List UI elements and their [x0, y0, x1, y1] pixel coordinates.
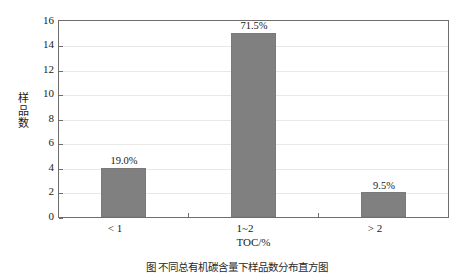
x-axis-title: TOC/% [58, 236, 449, 248]
x-tick-mark [188, 213, 189, 217]
y-tick-label: 4 [32, 162, 54, 173]
bar-category-0 [101, 168, 146, 217]
x-tick-label: > 2 [330, 222, 420, 234]
bar-category-2 [361, 192, 406, 217]
y-tick-mark [59, 46, 63, 47]
y-tick-mark [59, 120, 63, 121]
bar-value-label: 19.0% [94, 155, 154, 166]
y-tick-label: 0 [32, 211, 54, 222]
y-tick-label: 14 [32, 39, 54, 50]
bar-category-1 [231, 33, 276, 217]
y-tick-label: 6 [32, 137, 54, 148]
y-tick-label: 8 [32, 113, 54, 124]
y-tick-mark [59, 193, 63, 194]
y-tick-mark [59, 71, 63, 72]
x-tick-mark [318, 213, 319, 217]
figure-caption: 图 不同总有机碳含量下样品数分布直方图 [0, 261, 474, 274]
y-tick-mark [59, 169, 63, 170]
y-tick-label: 10 [32, 88, 54, 99]
y-tick-label: 12 [32, 64, 54, 75]
y-axis-tick-labels: 16 14 12 10 8 6 4 2 0 [30, 0, 54, 271]
y-tick-label: 2 [32, 186, 54, 197]
y-tick-mark [59, 144, 63, 145]
x-tick-label: 1~2 [200, 222, 290, 234]
y-tick-label: 16 [32, 15, 54, 26]
x-tick-label: < 1 [70, 222, 160, 234]
bar-value-label: 9.5% [354, 180, 414, 191]
y-tick-mark [59, 218, 63, 219]
bar-value-label: 71.5% [224, 20, 284, 31]
y-tick-mark [59, 95, 63, 96]
plot-area: 19.0% 71.5% 9.5% [58, 20, 449, 218]
